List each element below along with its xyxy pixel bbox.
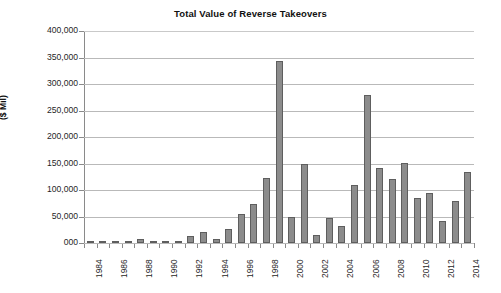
bar [213,239,220,243]
x-axis-tick [348,244,349,248]
x-axis-tick [411,244,412,248]
x-axis-label: 1986 [119,259,129,278]
bar [376,168,383,243]
x-axis-tick [210,244,211,248]
bar [351,185,358,243]
bar [364,95,371,243]
x-axis-tick [399,244,400,248]
x-axis-tick [449,244,450,248]
x-axis-tick [235,244,236,248]
x-axis-label: 2006 [371,259,381,278]
y-axis-title: ($ Mil) [0,95,8,120]
bar [225,229,232,243]
bar [99,241,106,243]
bar [389,179,396,243]
x-axis-tick [109,244,110,248]
x-axis-tick [122,244,123,248]
y-axis-label: 350,000 [32,52,78,62]
x-axis-tick [172,244,173,248]
bar [313,235,320,243]
x-axis-tick [134,244,135,248]
bar [288,217,295,243]
bar [200,232,207,243]
bar [238,214,245,243]
x-axis-tick [336,244,337,248]
y-axis-labels: 00050,000100,000150,000200,000250,000300… [30,31,78,243]
y-axis-label: 200,000 [32,131,78,141]
y-axis-label: 50,000 [32,211,78,221]
bar [250,204,257,243]
x-axis-tick [436,244,437,248]
bar [452,201,459,243]
bar [187,236,194,243]
bar [125,241,132,243]
x-axis-tick [461,244,462,248]
x-axis-tick [185,244,186,248]
x-axis-tick [424,244,425,248]
bar [326,218,333,243]
bar [301,164,308,243]
x-axis-tick [222,244,223,248]
bar [401,163,408,243]
x-axis-tick [147,244,148,248]
x-axis-tick [323,244,324,248]
bar [439,221,446,243]
x-axis-tick [84,244,85,248]
x-axis-label: 1988 [144,259,154,278]
x-axis-label: 2010 [421,259,431,278]
x-axis-labels: 1984198619881990199219941996199820002002… [84,250,475,293]
bar [276,61,283,243]
x-axis-tick [273,244,274,248]
x-axis-tick [97,244,98,248]
x-axis-label: 2000 [295,259,305,278]
bar [150,241,157,243]
x-axis-tick [159,244,160,248]
bar [338,226,345,243]
x-axis-label: 2012 [446,259,456,278]
plot-area [84,31,474,243]
bar [414,198,421,243]
x-axis-tick [361,244,362,248]
x-axis-label: 2008 [396,259,406,278]
bar [112,241,119,243]
chart-title: Total Value of Reverse Takeovers [0,8,501,19]
y-axis-label: 100,000 [32,184,78,194]
x-axis-tick [373,244,374,248]
x-axis-label: 2004 [345,259,355,278]
bar-series [84,31,474,243]
chart-container: Total Value of Reverse Takeovers ($ Mil)… [0,0,501,293]
bar [175,241,182,243]
x-axis-label: 2002 [320,259,330,278]
x-axis-tick [248,244,249,248]
x-axis-tick [197,244,198,248]
x-axis-label: 1994 [220,259,230,278]
y-axis-label: 000 [32,237,78,247]
bar [137,239,144,243]
y-axis-label: 250,000 [32,105,78,115]
y-axis-label: 300,000 [32,78,78,88]
x-axis-label: 1990 [169,259,179,278]
x-axis-tick [386,244,387,248]
bar [426,193,433,243]
bar [263,178,270,243]
x-axis-label: 1996 [245,259,255,278]
x-axis-tick [298,244,299,248]
x-axis-label: 1992 [194,259,204,278]
x-axis-label: 2014 [471,259,481,278]
x-axis-label: 1984 [94,259,104,278]
x-axis-tick [310,244,311,248]
x-axis-tick [474,244,475,248]
x-axis-ticks [84,244,475,249]
bar [162,241,169,243]
bar [464,172,471,243]
y-axis-label: 400,000 [32,25,78,35]
x-axis-label: 1998 [270,259,280,278]
x-axis-tick [285,244,286,248]
x-axis-tick [260,244,261,248]
bar [87,241,94,243]
y-axis-label: 150,000 [32,158,78,168]
